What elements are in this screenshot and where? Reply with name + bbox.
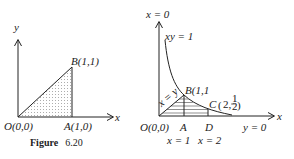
figure-caption: Figure 6.20 [30,132,83,149]
figure-right: x = 0 xy = 1 x = y B(1,1 C ( 2, 1 2 ) O(… [140,8,282,146]
x-equals-1-label: x = 1 [166,134,190,146]
point-O-label: O(0,0) [4,120,33,133]
curve-label: xy = 1 [164,30,193,42]
point-D-label: D [204,121,213,133]
figure-canvas: y x B(1,1) O(0,0) A(1,0) Figure 6.20 x =… [0,0,294,159]
y-axis-eq-label: x = 0 [145,8,170,20]
svg-text:(: ( [218,99,222,112]
hyperbola-xy-1 [165,40,232,115]
x-equals-2-label: x = 2 [197,134,222,146]
point-O-label: O(0,0) [140,121,169,134]
figure-left: y x B(1,1) O(0,0) A(1,0) Figure 6.20 [4,21,120,149]
point-A-label: A(1,0) [63,120,92,133]
x-axis-eq-label: y = 0 [242,121,267,133]
point-B-label: B(1,1 [185,84,209,97]
svg-text:2,: 2, [223,98,232,110]
caption-number: 6.20 [65,137,83,148]
x-axis-label: x [114,111,120,123]
caption-bold: Figure [30,137,59,148]
point-C-label: C ( 2, 1 2 ) [209,92,241,112]
point-B-label: B(1,1) [71,55,99,68]
y-axis-label: y [13,21,19,33]
svg-text:C: C [209,98,217,110]
svg-text:): ) [237,99,241,112]
point-A-label: A [179,121,187,133]
x-axis-label: x [276,110,282,122]
